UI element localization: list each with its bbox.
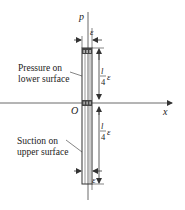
x-axis-label: x: [162, 106, 168, 117]
band-mark: [84, 102, 85, 105]
lower-height-epsilon: ε: [107, 127, 111, 137]
upper-label-leader: [70, 72, 82, 76]
cap-mark: [84, 50, 85, 53]
pressure-label-line1: Pressure on: [18, 63, 62, 73]
upper-height-numerator: l: [101, 66, 104, 76]
suction-label-line2: upper surface: [17, 147, 68, 157]
lower-height-numerator: l: [101, 121, 104, 131]
bottom-width-label: ε: [92, 175, 96, 185]
origin-label: O: [71, 105, 78, 116]
cap-mark: [90, 50, 91, 53]
pressure-label-line2: lower surface: [18, 74, 69, 84]
top-width-label: ε: [90, 27, 94, 37]
plate-outline: [82, 48, 92, 184]
cap-mark: [87, 50, 88, 53]
suction-label-line1: Suction on: [17, 136, 58, 146]
upper-height-epsilon: ε: [107, 72, 111, 82]
p-axis-label: p: [78, 11, 84, 22]
band-mark: [90, 102, 91, 105]
pressure-distribution-diagram: p x O ε ε l 4 ε l 4 ε Pressure on lower …: [0, 0, 185, 210]
band-mark: [87, 102, 88, 105]
upper-height-denominator: 4: [101, 77, 106, 87]
lower-height-denominator: 4: [101, 132, 106, 142]
